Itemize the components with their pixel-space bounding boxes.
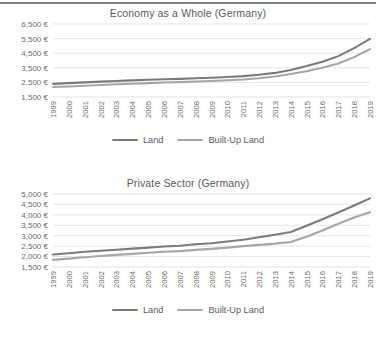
x-axis-tick-label: 2014 (287, 101, 296, 118)
x-axis-tick-label: 2019 (366, 271, 375, 288)
x-axis-tick-label: 2002 (97, 271, 106, 288)
legend-swatch-built-up-land (177, 309, 203, 311)
y-axis-tick-label: 1,500 € (21, 263, 48, 272)
x-axis-tick-label: 2005 (144, 271, 153, 288)
x-axis-tick-label: 2001 (81, 271, 90, 288)
x-axis-tick-label: 1999 (49, 101, 58, 118)
x-axis-tick-label: 2010 (223, 271, 232, 288)
x-axis-tick-label: 2019 (366, 101, 375, 118)
x-axis-tick-label: 2001 (81, 101, 90, 118)
x-axis-tick-label: 2008 (192, 271, 201, 288)
x-axis-tick-label: 2006 (160, 271, 169, 288)
y-axis-tick-label: 3,000 € (21, 232, 48, 241)
x-axis-tick-label: 2007 (176, 101, 185, 118)
x-axis-tick-label: 2005 (144, 101, 153, 118)
x-axis-tick-label: 2002 (97, 101, 106, 118)
chart-private-sector: Private Sector (Germany) 1,500 €2,000 €2… (0, 176, 376, 346)
x-axis-tick-label: 2014 (287, 271, 296, 288)
legend-swatch-built-up-land (177, 139, 203, 141)
header-divider (0, 2, 376, 4)
x-axis-tick-label: 2004 (128, 101, 137, 118)
y-axis-tick-label: 5,500 € (21, 35, 48, 44)
x-axis-tick-label: 2012 (255, 271, 264, 288)
legend-item-built-up-land[interactable]: Built-Up Land (177, 135, 264, 145)
legend-swatch-land (112, 139, 138, 141)
y-axis-tick-label: 2,500 € (21, 78, 48, 87)
x-axis-tick-label: 2015 (303, 271, 312, 288)
line-chart-svg: 1,500 €2,000 €2,500 €3,000 €3,500 €4,000… (0, 191, 376, 301)
x-axis-tick-label: 2016 (318, 271, 327, 288)
x-axis-tick-label: 2015 (303, 101, 312, 118)
legend-label-land: Land (143, 305, 163, 315)
x-axis-tick-label: 2013 (271, 101, 280, 118)
x-axis-tick-label: 2003 (112, 271, 121, 288)
chart-title: Economy as a Whole (Germany) (0, 6, 376, 21)
x-axis-tick-label: 2006 (160, 101, 169, 118)
x-axis-tick-label: 2011 (239, 101, 248, 117)
x-axis-tick-label: 2000 (65, 101, 74, 118)
x-axis-tick-label: 2013 (271, 271, 280, 288)
chart-legend: Land Built-Up Land (0, 301, 376, 319)
x-axis-tick-label: 2011 (239, 271, 248, 287)
x-axis-tick-label: 2004 (128, 271, 137, 288)
x-axis-tick-label: 2009 (208, 101, 217, 118)
chart-title: Private Sector (Germany) (0, 176, 376, 191)
y-axis-tick-label: 3,500 € (21, 221, 48, 230)
x-axis-tick-label: 2007 (176, 271, 185, 288)
x-axis-tick-label: 2009 (208, 271, 217, 288)
x-axis-tick-label: 2003 (112, 101, 121, 118)
chart-economy-as-a-whole: Economy as a Whole (Germany) 1,500 €2,50… (0, 6, 376, 176)
legend-item-land[interactable]: Land (112, 305, 163, 315)
plot-area: 1,500 €2,000 €2,500 €3,000 €3,500 €4,000… (0, 191, 376, 301)
x-axis-tick-label: 2016 (318, 101, 327, 118)
x-axis-tick-label: 2017 (334, 101, 343, 118)
x-axis-tick-label: 2018 (350, 271, 359, 288)
plot-area: 1,500 €2,500 €3,500 €4,500 €5,500 €6,500… (0, 21, 376, 131)
chart-legend: Land Built-Up Land (0, 131, 376, 149)
x-axis-tick-label: 2012 (255, 101, 264, 118)
y-axis-tick-label: 3,500 € (21, 64, 48, 73)
chart-page: Economy as a Whole (Germany) 1,500 €2,50… (0, 0, 376, 356)
x-axis-tick-label: 2008 (192, 101, 201, 118)
x-axis-tick-label: 2018 (350, 101, 359, 118)
y-axis-tick-label: 2,000 € (21, 252, 48, 261)
y-axis-tick-label: 5,000 € (21, 191, 48, 199)
x-axis-tick-label: 2017 (334, 271, 343, 288)
y-axis-tick-label: 4,500 € (21, 200, 48, 209)
y-axis-tick-label: 4,500 € (21, 49, 48, 58)
x-axis-tick-label: 1999 (49, 271, 58, 288)
line-chart-svg: 1,500 €2,500 €3,500 €4,500 €5,500 €6,500… (0, 21, 376, 131)
x-axis-tick-label: 2010 (223, 101, 232, 118)
x-axis-tick-label: 2000 (65, 271, 74, 288)
legend-item-built-up-land[interactable]: Built-Up Land (177, 305, 264, 315)
y-axis-tick-label: 1,500 € (21, 93, 48, 102)
series-line-land (53, 39, 370, 84)
y-axis-tick-label: 6,500 € (21, 21, 48, 29)
legend-label-built-up-land: Built-Up Land (208, 305, 264, 315)
legend-item-land[interactable]: Land (112, 135, 163, 145)
y-axis-tick-label: 2,500 € (21, 242, 48, 251)
legend-label-built-up-land: Built-Up Land (208, 135, 264, 145)
legend-label-land: Land (143, 135, 163, 145)
legend-swatch-land (112, 309, 138, 311)
y-axis-tick-label: 4,000 € (21, 211, 48, 220)
